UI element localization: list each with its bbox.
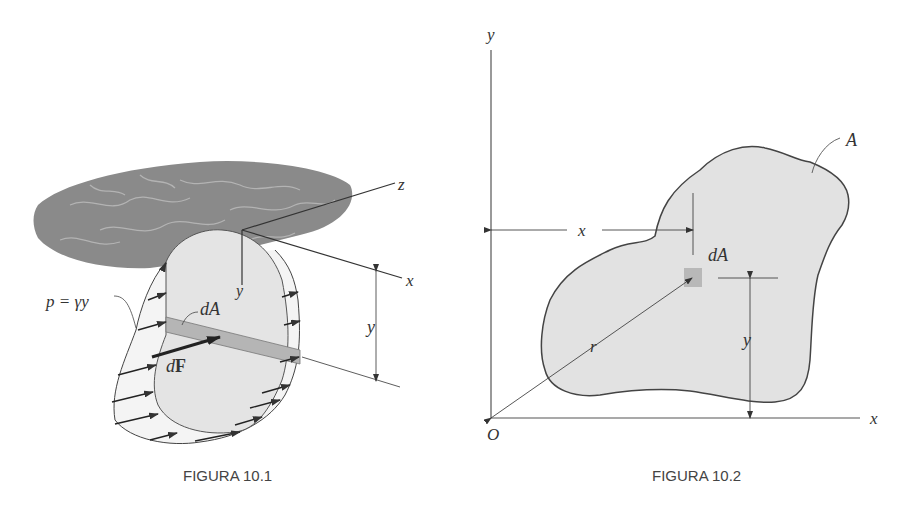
pressure-leader (114, 296, 136, 328)
axis-y-label: y (234, 282, 244, 300)
figures-canvas: z x y y p = γy dA dF FIGURA 10.1 y x O A (0, 0, 918, 511)
y-distance-label: y (741, 330, 751, 350)
dA-label-2: dA (708, 245, 729, 265)
element-dA (684, 268, 702, 287)
axis-x-label: x (405, 271, 414, 290)
figure-10-1: z x y y p = γy dA dF FIGURA 10.1 (34, 161, 415, 484)
figure-10-2: y x O A dA x y r FIGURA 10.2 (485, 25, 878, 484)
origin-label: O (487, 425, 499, 444)
axis-x-label-2: x (869, 409, 878, 428)
area-label: A (845, 130, 858, 150)
dA-label: dA (200, 299, 221, 319)
x-distance-label: x (577, 221, 586, 240)
r-label: r (590, 337, 597, 356)
depth-y-label: y (365, 317, 375, 337)
dF-label: dF (166, 356, 186, 376)
pressure-label: p = γy (45, 292, 89, 311)
axis-y-label-2: y (485, 25, 495, 44)
caption-figura-10-2: FIGURA 10.2 (652, 467, 741, 484)
caption-figura-10-1: FIGURA 10.1 (183, 467, 272, 484)
axis-z-label: z (397, 175, 405, 194)
